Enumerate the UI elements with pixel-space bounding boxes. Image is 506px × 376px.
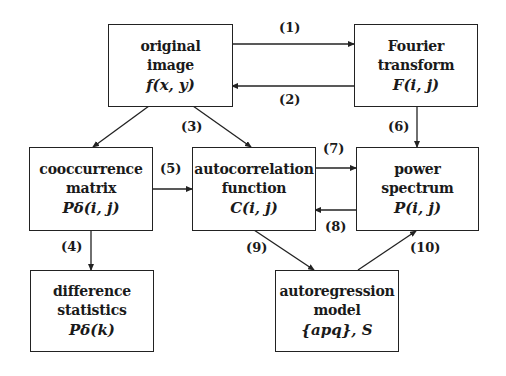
node-label: matrix: [66, 179, 116, 198]
node-formula: Pδ(k): [69, 320, 115, 340]
node-label: transform: [378, 56, 455, 75]
edge-label-10: (10): [410, 240, 440, 255]
node-label: image: [147, 56, 194, 75]
node-formula: Pδ(i, j): [62, 198, 119, 218]
edge-label-3: (3): [181, 119, 202, 134]
edge-label-8: (8): [325, 219, 346, 234]
node-label: function: [222, 179, 287, 198]
node-formula: f(x, y): [146, 75, 195, 95]
node-formula: {apq}, S: [301, 320, 372, 340]
edge-label-7: (7): [323, 141, 344, 156]
node-difference-statistics: difference statistics Pδ(k): [30, 270, 154, 352]
edge-label-2: (2): [279, 92, 300, 107]
node-label: original: [140, 37, 200, 56]
node-label: autocorrelation: [194, 160, 313, 179]
node-label: statistics: [57, 301, 126, 320]
node-label: autoregression: [279, 282, 394, 301]
edge-label-9: (9): [246, 240, 267, 255]
node-formula: F(i, j): [393, 75, 439, 95]
node-cooccurrence-matrix: cooccurrence matrix Pδ(i, j): [29, 147, 153, 231]
node-label: spectrum: [381, 179, 453, 198]
edge-label-6: (6): [388, 119, 409, 134]
node-label: Fourier: [388, 37, 444, 56]
node-autoregression-model: autoregression model {apq}, S: [275, 270, 399, 352]
edge-label-5: (5): [160, 161, 181, 176]
node-label: difference: [53, 282, 131, 301]
node-label: model: [313, 301, 360, 320]
node-label: power: [394, 160, 440, 179]
node-formula: C(i, j): [230, 198, 278, 218]
edge-label-1: (1): [279, 20, 300, 35]
node-original-image: original image f(x, y): [108, 24, 233, 107]
node-autocorrelation-function: autocorrelation function C(i, j): [192, 147, 316, 231]
node-power-spectrum: power spectrum P(i, j): [356, 147, 479, 231]
node-label: cooccurrence: [39, 160, 142, 179]
edge-3b: [93, 106, 149, 147]
node-formula: P(i, j): [394, 198, 441, 218]
node-fourier-transform: Fourier transform F(i, j): [354, 24, 478, 107]
edge-label-4: (4): [61, 239, 82, 254]
edge-10: [358, 231, 416, 270]
